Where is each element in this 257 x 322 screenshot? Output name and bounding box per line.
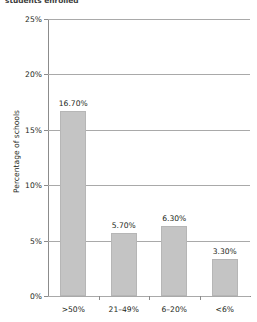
y-axis-tick xyxy=(44,185,48,186)
figure-caption-text: students enrolled xyxy=(5,0,79,6)
x-axis-tick xyxy=(200,296,201,300)
bar-value-label: 6.30% xyxy=(162,214,186,223)
x-axis-category-label: <6% xyxy=(216,305,234,314)
bar xyxy=(161,226,187,296)
y-axis-tick xyxy=(44,74,48,75)
plot-area: 0%5%10%15%20%25% 16.70%5.70%6.30%3.30% >… xyxy=(48,19,250,296)
x-axis-category-label: >50% xyxy=(62,305,85,314)
y-axis-tick-label: 15% xyxy=(25,125,42,134)
y-axis-tick xyxy=(44,296,48,297)
figure-caption-clipped: students enrolled xyxy=(5,0,205,8)
x-axis-tick xyxy=(149,296,150,300)
bar xyxy=(212,259,238,296)
bar-chart: students enrolled Percentage of schools … xyxy=(0,0,257,322)
y-axis-tick xyxy=(44,130,48,131)
y-axis-tick-label: 5% xyxy=(30,236,42,245)
gridline xyxy=(48,74,250,75)
y-axis-tick-label: 20% xyxy=(25,70,42,79)
y-axis-title: Percentage of schools xyxy=(12,87,21,217)
bar-value-label: 16.70% xyxy=(59,99,88,108)
bar-value-label: 3.30% xyxy=(213,247,237,256)
y-axis-tick-label: 10% xyxy=(25,181,42,190)
x-axis-category-label: 6–20% xyxy=(161,305,187,314)
bar xyxy=(60,111,86,296)
y-axis-tick xyxy=(44,19,48,20)
bar xyxy=(111,233,137,296)
x-axis-category-label: 21–49% xyxy=(109,305,139,314)
gridline xyxy=(48,19,250,20)
y-axis-tick-label: 0% xyxy=(30,292,42,301)
x-axis-tick xyxy=(99,296,100,300)
bar-value-label: 5.70% xyxy=(112,221,136,230)
y-axis-tick-label: 25% xyxy=(25,15,42,24)
y-axis-tick xyxy=(44,241,48,242)
